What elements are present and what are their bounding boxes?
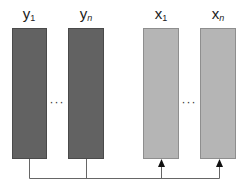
arrowhead-icon [158,159,165,167]
connector-lines [0,0,246,188]
arrowhead-icon [216,159,223,167]
